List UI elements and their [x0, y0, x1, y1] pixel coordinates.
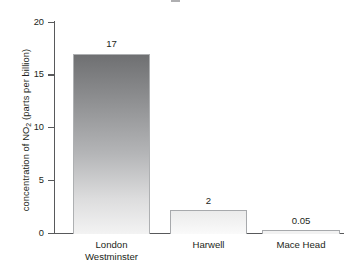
- y-tick-mark-10: [48, 127, 54, 128]
- bar-value-label-harwell: 2: [170, 195, 247, 206]
- y-tick-mark-15: [48, 74, 54, 75]
- y-tick-label-0: 0: [4, 228, 44, 238]
- bar-value-label-mace-head: 0.05: [262, 215, 340, 226]
- y-tick-label-10: 10: [4, 122, 44, 132]
- y-axis-title-prefix: concentration of NO: [21, 127, 31, 212]
- y-tick-label-5: 5: [4, 175, 44, 185]
- bar-value-label-london-westminster: 17: [73, 38, 150, 49]
- x-category-label-line2: Westminster: [63, 251, 160, 263]
- y-tick-label-15: 15: [4, 69, 44, 79]
- x-category-label-line1: London: [95, 239, 127, 250]
- bar-chart: concentration of NO2 (parts per billion)…: [0, 0, 354, 275]
- bar-harwell[interactable]: [170, 210, 247, 235]
- y-tick-label-20: 20: [4, 17, 44, 27]
- y-axis-title-suffix: (parts per billion): [21, 49, 31, 123]
- x-category-label-harwell: Harwell: [170, 239, 247, 251]
- y-tick-mark-5: [48, 180, 54, 181]
- y-axis-line: [54, 21, 55, 234]
- cropped-title-artifact: [171, 0, 180, 2]
- y-tick-mark-0: [48, 233, 54, 234]
- y-tick-mark-20: [48, 22, 54, 23]
- bar-london-westminster[interactable]: [73, 54, 150, 234]
- x-category-label-london-westminster: London Westminster: [63, 239, 160, 262]
- x-category-label-mace-head: Mace Head: [258, 239, 344, 251]
- bar-mace-head[interactable]: [262, 230, 340, 234]
